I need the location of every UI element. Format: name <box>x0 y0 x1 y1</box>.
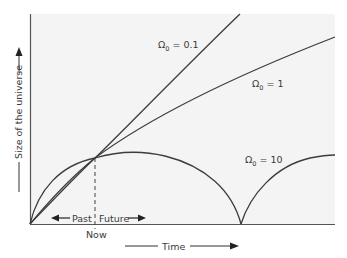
cosmology-expansion-diagram: Now Past Future Time Size of the univers… <box>0 0 347 258</box>
now-label: Now <box>86 229 107 240</box>
future-label: Future <box>99 213 129 224</box>
y-axis-label: Size of the universe <box>13 65 24 159</box>
x-axis-label: Time <box>161 241 185 252</box>
past-label: Past <box>72 213 92 224</box>
